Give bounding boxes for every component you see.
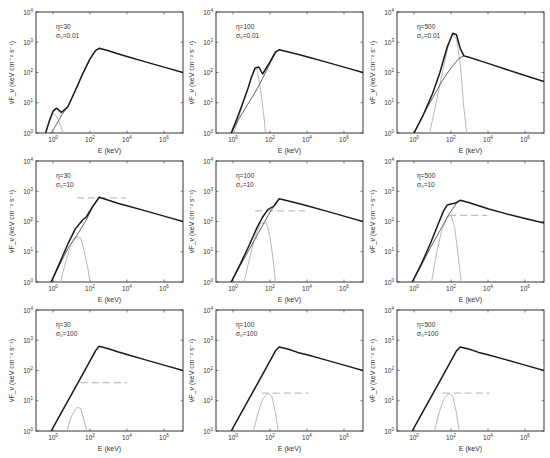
panel-r2-c1: 100102104106100101102103104E (keV)νF_ν (… — [188, 306, 363, 454]
sigma-label: σ₀=100 — [56, 330, 78, 337]
tick-label: 104 — [122, 135, 132, 143]
tick-label: 104 — [23, 157, 33, 165]
panel-r0-c2: 100102104106100101102103104E (keV)νF_ν (… — [369, 8, 544, 156]
tick-label: 100 — [228, 135, 238, 143]
thermal-spectrum-curve — [60, 237, 90, 282]
thermal-spectrum-curve — [67, 407, 87, 431]
panel-r2-c0: 100102104106100101102103104E (keV)νF_ν (… — [8, 306, 183, 454]
tick-label: 101 — [23, 247, 33, 255]
sigma-label: σ₀=10 — [56, 181, 74, 188]
panel-r0-c1: 100102104106100101102103104E (keV)νF_ν (… — [188, 8, 363, 156]
tick-label: 104 — [302, 135, 312, 143]
x-axis-label: E (keV) — [98, 445, 121, 453]
tick-label: 102 — [384, 366, 394, 374]
tick-label: 104 — [23, 306, 33, 314]
tick-label: 102 — [446, 135, 456, 143]
tick-label: 106 — [520, 135, 530, 143]
tick-label: 104 — [122, 433, 132, 441]
total-spectrum-curve — [46, 48, 183, 133]
tick-label: 103 — [23, 38, 33, 46]
tick-label: 100 — [203, 278, 213, 286]
tick-label: 101 — [384, 247, 394, 255]
x-axis-label: E (keV) — [278, 296, 301, 304]
sigma-label: σ₀=0.01 — [56, 32, 80, 39]
axes-frame — [36, 310, 183, 431]
tick-label: 101 — [203, 98, 213, 106]
axes-frame — [397, 310, 544, 431]
tick-label: 102 — [384, 68, 394, 76]
tick-label: 100 — [48, 135, 58, 143]
tick-label: 103 — [23, 336, 33, 344]
tick-label: 104 — [384, 8, 394, 16]
eta-label: η=100 — [236, 23, 255, 31]
tick-label: 104 — [23, 8, 33, 16]
total-spectrum-curve — [231, 347, 363, 431]
y-axis-label: νF_ν (keV cm⁻² s⁻¹) — [188, 41, 196, 104]
tick-label: 101 — [384, 98, 394, 106]
tick-label: 102 — [265, 433, 275, 441]
axes-frame — [36, 12, 183, 133]
tick-label: 100 — [203, 427, 213, 435]
thermal-spectrum-curve — [434, 393, 459, 431]
tick-label: 103 — [23, 187, 33, 195]
tick-label: 104 — [302, 433, 312, 441]
axes-frame — [36, 161, 183, 282]
eta-label: η=30 — [56, 172, 71, 180]
y-axis-label: νF_ν (keV cm⁻² s⁻¹) — [369, 41, 377, 104]
tick-label: 100 — [409, 433, 419, 441]
tick-label: 100 — [409, 284, 419, 292]
tick-label: 100 — [384, 427, 394, 435]
total-spectrum-curve — [51, 197, 183, 282]
tick-label: 106 — [159, 284, 169, 292]
tick-label: 102 — [265, 284, 275, 292]
tick-label: 102 — [265, 135, 275, 143]
thermal-spectrum-curve — [244, 223, 275, 282]
eta-label: η=100 — [236, 321, 255, 329]
x-axis-label: E (keV) — [459, 296, 482, 304]
tick-label: 103 — [203, 187, 213, 195]
tick-label: 102 — [384, 217, 394, 225]
tick-label: 100 — [23, 427, 33, 435]
tick-label: 106 — [339, 135, 349, 143]
tick-label: 104 — [483, 135, 493, 143]
tick-label: 102 — [446, 284, 456, 292]
y-axis-label: νF_ν (keV cm⁻² s⁻¹) — [188, 339, 196, 402]
tick-label: 102 — [23, 217, 33, 225]
tick-label: 106 — [339, 284, 349, 292]
sigma-label: σ₀=10 — [417, 181, 435, 188]
x-axis-label: E (keV) — [98, 147, 121, 155]
eta-label: η=500 — [417, 172, 436, 180]
tick-label: 102 — [203, 366, 213, 374]
tick-label: 102 — [85, 135, 95, 143]
total-spectrum-curve — [414, 33, 544, 133]
x-axis-label: E (keV) — [459, 445, 482, 453]
total-spectrum-curve — [412, 200, 544, 282]
thermal-spectrum-curve — [432, 215, 462, 282]
tick-label: 104 — [122, 284, 132, 292]
tick-label: 103 — [384, 187, 394, 195]
tick-label: 100 — [23, 129, 33, 137]
tick-label: 100 — [203, 129, 213, 137]
axes-frame — [397, 161, 544, 282]
tick-label: 106 — [520, 284, 530, 292]
sigma-label: σ₀=100 — [417, 330, 439, 337]
eta-label: η=100 — [236, 172, 255, 180]
tick-label: 100 — [228, 284, 238, 292]
tick-label: 104 — [384, 306, 394, 314]
sigma-label: σ₀=10 — [236, 181, 254, 188]
sigma-label: σ₀=100 — [236, 330, 258, 337]
tick-label: 104 — [302, 284, 312, 292]
tick-label: 102 — [85, 433, 95, 441]
tick-label: 101 — [23, 396, 33, 404]
tick-label: 102 — [85, 284, 95, 292]
panel-r1-c1: 100102104106100101102103104E (keV)νF_ν (… — [188, 157, 363, 305]
x-axis-label: E (keV) — [459, 147, 482, 155]
tick-label: 104 — [384, 157, 394, 165]
x-axis-label: E (keV) — [278, 445, 301, 453]
tick-label: 100 — [228, 433, 238, 441]
nonthermal-spectrum-curve — [412, 200, 460, 282]
tick-label: 104 — [203, 306, 213, 314]
tick-label: 104 — [203, 8, 213, 16]
tick-label: 106 — [159, 135, 169, 143]
tick-label: 101 — [384, 396, 394, 404]
